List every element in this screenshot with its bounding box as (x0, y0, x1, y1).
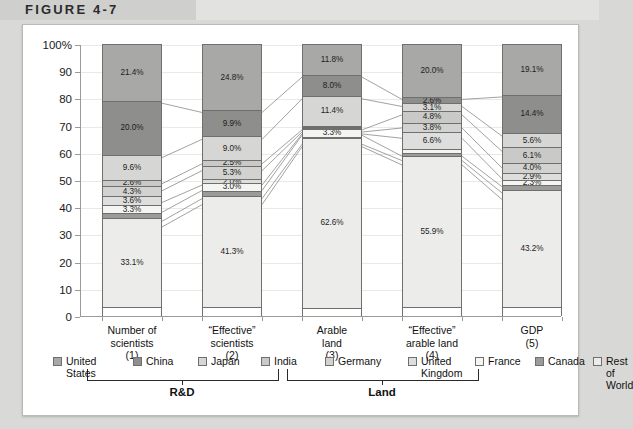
bar-segment[interactable]: 20.0% (403, 44, 461, 98)
bar-segment[interactable]: 41.3% (203, 196, 261, 308)
x-tick (402, 317, 403, 321)
legend-item[interactable]: Rest of World (593, 355, 633, 391)
bar-segment[interactable]: 33.1% (103, 218, 161, 308)
x-tick (162, 317, 163, 321)
group-bracket-label: R&D (87, 386, 277, 398)
segment-value-label: 19.1% (520, 66, 543, 74)
stacked-bar[interactable]: 19.1%14.4%5.6%6.1%4.0%2.9%2.3%43.2% (502, 44, 562, 316)
connector-line (462, 161, 502, 193)
bar-segment[interactable]: 14.4% (503, 95, 561, 134)
bar-segment[interactable]: 6.6% (403, 132, 461, 150)
y-tick-label: 100% (43, 39, 72, 51)
bar-segment[interactable]: 24.8% (203, 44, 261, 111)
bar-segment[interactable]: 62.6% (303, 138, 361, 308)
legend-item[interactable]: United States (53, 355, 96, 379)
legend-item[interactable]: Canada (535, 355, 585, 367)
segment-value-label: 20.0% (120, 124, 143, 132)
bar-segment[interactable]: 5.6% (503, 133, 561, 148)
segment-value-label: 4.8% (423, 113, 442, 121)
y-tick (75, 263, 80, 264)
segment-value-label: 4.0% (523, 164, 542, 172)
connector-line (462, 138, 502, 179)
stacked-bar[interactable]: 11.8%8.0%11.4%3.3%62.6% (302, 44, 362, 316)
y-tick-label: 0 (66, 311, 72, 323)
segment-value-label: 41.3% (220, 248, 243, 256)
segment-value-label: 21.4% (120, 69, 143, 77)
connector-line (262, 144, 302, 198)
legend-item[interactable]: India (261, 355, 297, 367)
connector-line (262, 134, 302, 185)
group-bracket-tip (382, 380, 383, 385)
segment-value-label: 6.6% (423, 137, 442, 145)
legend-swatch (408, 357, 417, 366)
bar-segment[interactable]: 9.9% (203, 110, 261, 137)
group-bracket-tip (182, 380, 183, 385)
connector-line (362, 147, 402, 165)
legend-swatch (261, 357, 270, 366)
y-tick (75, 181, 80, 182)
bar-segment[interactable]: 9.0% (203, 136, 261, 160)
legend-swatch (535, 357, 544, 366)
connector-line (462, 115, 502, 151)
connector-line (262, 147, 302, 205)
segment-value-label: 5.6% (523, 137, 542, 145)
y-tick (75, 208, 80, 209)
x-category-line: GDP (472, 324, 592, 337)
legend-item[interactable]: Japan (198, 355, 240, 367)
connector-line (462, 156, 502, 186)
segment-value-label: 3.8% (423, 124, 442, 132)
bar-segment[interactable]: 20.0% (103, 101, 161, 155)
bar-segment[interactable]: 9.6% (103, 155, 161, 181)
segment-value-label: 14.4% (520, 110, 543, 118)
y-tick (75, 99, 80, 100)
connector-line (362, 144, 402, 160)
segment-value-label: 43.2% (520, 245, 543, 253)
legend-item[interactable]: China (133, 355, 173, 367)
segment-value-label: 33.1% (120, 259, 143, 267)
group-bracket (87, 369, 279, 381)
y-tick (75, 317, 80, 318)
legend-item[interactable]: Germany (325, 355, 381, 367)
bar-segment[interactable]: 55.9% (403, 156, 461, 308)
y-tick (75, 235, 80, 236)
segment-value-label: 20.0% (420, 67, 443, 75)
legend-item[interactable]: France (475, 355, 521, 367)
x-tick (562, 317, 563, 321)
stacked-bar[interactable]: 24.8%9.9%9.0%2.5%5.3%2.0%3.0%41.3% (202, 44, 262, 316)
bar-segment[interactable]: 19.1% (503, 44, 561, 96)
bar-segment[interactable]: 11.8% (303, 44, 361, 76)
connector-line (362, 128, 402, 132)
legend-label: United States (66, 355, 96, 379)
legend-label: France (488, 355, 521, 367)
legend-label: China (146, 355, 173, 367)
bar-segment[interactable]: 5.3% (203, 166, 261, 180)
y-tick-label: 50 (59, 175, 72, 187)
segment-value-label: 8.0% (323, 82, 342, 90)
connector-line (262, 132, 302, 171)
y-tick-label: 80 (59, 93, 72, 105)
legend-swatch (198, 357, 207, 366)
connector-line (162, 139, 202, 157)
chart-panel: 100%9080706050403020100 21.4%20.0%9.6%2.… (22, 24, 579, 416)
legend-item[interactable]: United Kingdom (408, 355, 462, 379)
x-category-line: (5) (472, 337, 592, 350)
x-tick (202, 317, 203, 321)
legend-swatch (325, 357, 334, 366)
segment-value-label: 5.3% (223, 169, 242, 177)
connector-line (262, 77, 302, 112)
connector-line (162, 199, 202, 222)
y-tick (75, 127, 80, 128)
legend-label: Rest of World (606, 355, 633, 391)
x-tick (102, 317, 103, 321)
bar-segment[interactable]: 6.1% (503, 147, 561, 164)
stacked-bar[interactable]: 21.4%20.0%9.6%2.6%4.3%3.6%3.3%33.1% (102, 44, 162, 316)
bar-segment[interactable]: 11.4% (303, 96, 361, 127)
legend-label: Germany (338, 355, 381, 367)
connector-line (362, 134, 402, 138)
bar-segment[interactable]: 21.4% (103, 44, 161, 102)
bar-segment[interactable]: 8.0% (303, 75, 361, 97)
stacked-bar[interactable]: 20.0%2.6%3.1%4.8%3.8%6.6%55.9% (402, 44, 462, 316)
bar-segment[interactable]: 43.2% (503, 190, 561, 308)
y-tick-label: 70 (59, 121, 72, 133)
segment-value-label: 11.4% (321, 107, 344, 115)
